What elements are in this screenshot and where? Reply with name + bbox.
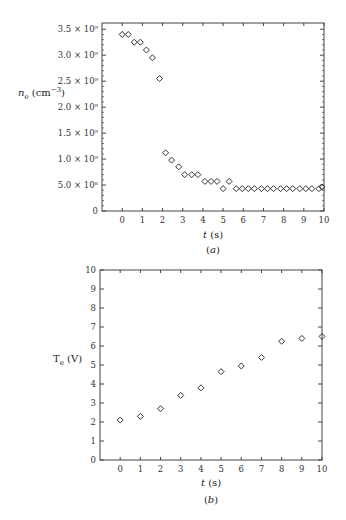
x-tick-label: 5 [218, 464, 223, 474]
x-tick-label: 0 [117, 464, 122, 474]
diamond-marker [299, 335, 305, 341]
diamond-marker [137, 39, 143, 45]
diamond-marker [297, 186, 303, 192]
x-tick-label: 10 [319, 215, 330, 225]
y-tick-label: 8 [91, 303, 96, 313]
diamond-marker [233, 186, 239, 192]
y-tick-label: 5 [91, 360, 96, 370]
diamond-marker [137, 413, 143, 419]
y-tick-label: 9 [91, 284, 96, 294]
chart-a-y-axis-label: ne (cm−3) [18, 86, 65, 101]
y-tick-label: 7 [91, 322, 96, 332]
diamond-marker [220, 186, 226, 192]
chart-b-data-points [117, 334, 325, 424]
diamond-marker [290, 186, 296, 192]
y-tick-label: 3.0 × 10⁹ [58, 50, 99, 60]
x-tick-label: 10 [317, 464, 328, 474]
x-tick-label: 6 [239, 464, 244, 474]
chart-b-x-axis-label: t (s) [201, 477, 221, 488]
x-tick-label: 9 [299, 464, 304, 474]
diamond-marker [258, 354, 264, 360]
y-tick-label: 1.5 × 10⁹ [58, 128, 99, 138]
chart-a-data-points [119, 31, 325, 191]
y-tick-label: 0 [91, 455, 96, 465]
diamond-marker [182, 172, 188, 178]
diamond-marker [163, 150, 169, 156]
x-tick-label: 7 [261, 215, 266, 225]
diamond-marker [178, 392, 184, 398]
y-tick-label: 2 [91, 417, 96, 427]
y-tick-label: 10 [85, 265, 96, 275]
x-tick-label: 5 [220, 215, 225, 225]
diamond-marker [258, 186, 264, 192]
diamond-marker [125, 31, 131, 37]
diamond-marker [226, 178, 232, 184]
y-tick-label: 6 [91, 341, 96, 351]
diamond-marker [251, 186, 257, 192]
chart-a-x-ticks: 012345678910 [119, 23, 329, 225]
diamond-marker [279, 338, 285, 344]
x-tick-label: 1 [140, 215, 145, 225]
y-tick-label: 1 [91, 436, 96, 446]
diamond-marker [119, 31, 125, 37]
diamond-marker [176, 164, 182, 170]
y-tick-label: 2.0 × 10⁹ [58, 102, 99, 112]
figure: 012345678910 05.0 × 10⁸1.0 × 10⁹1.5 × 10… [0, 0, 346, 520]
y-tick-label: 5.0 × 10⁸ [58, 180, 99, 190]
diamond-marker [218, 369, 224, 375]
y-tick-label: 3 [91, 398, 96, 408]
chart-b-electron-temperature: 012345678910 012345678910 Te (V) t (s) (… [53, 265, 327, 505]
diamond-marker [202, 178, 208, 184]
diamond-marker [309, 186, 315, 192]
diamond-marker [238, 363, 244, 369]
x-tick-label: 1 [138, 464, 143, 474]
diamond-marker [214, 178, 220, 184]
chart-b-caption: (b) [204, 494, 218, 505]
x-tick-label: 8 [281, 215, 286, 225]
diamond-marker [245, 186, 251, 192]
diamond-marker [131, 39, 137, 45]
diamond-marker [189, 172, 195, 178]
diamond-marker [239, 186, 245, 192]
y-tick-label: 1.0 × 10⁹ [58, 154, 99, 164]
chart-a-caption: (a) [206, 244, 220, 255]
x-tick-label: 3 [178, 464, 183, 474]
x-tick-label: 9 [301, 215, 306, 225]
diamond-marker [195, 172, 201, 178]
diamond-marker [271, 186, 277, 192]
diamond-marker [198, 385, 204, 391]
x-tick-label: 6 [241, 215, 246, 225]
chart-a-electron-density: 012345678910 05.0 × 10⁸1.0 × 10⁹1.5 × 10… [18, 23, 329, 255]
diamond-marker [278, 186, 284, 192]
x-tick-label: 8 [279, 464, 284, 474]
chart-b-y-ticks: 012345678910 [85, 265, 322, 465]
diamond-marker [143, 47, 149, 53]
diamond-marker [149, 55, 155, 61]
diamond-marker [117, 417, 123, 423]
y-tick-label: 4 [91, 379, 96, 389]
diamond-marker [208, 178, 214, 184]
x-tick-label: 2 [158, 464, 163, 474]
x-tick-label: 4 [200, 215, 205, 225]
x-tick-label: 4 [198, 464, 203, 474]
y-tick-label: 2.5 × 10⁹ [58, 76, 99, 86]
chart-a-y-ticks: 05.0 × 10⁸1.0 × 10⁹1.5 × 10⁹2.0 × 10⁹2.5… [58, 24, 324, 216]
diamond-marker [169, 157, 175, 163]
x-tick-label: 0 [119, 215, 124, 225]
diamond-marker [284, 186, 290, 192]
diamond-marker [157, 76, 163, 82]
x-tick-label: 7 [259, 464, 264, 474]
chart-b-frame [100, 270, 322, 460]
diamond-marker [264, 186, 270, 192]
chart-b-x-ticks: 012345678910 [117, 270, 327, 474]
y-tick-label: 3.5 × 10⁹ [58, 24, 99, 34]
x-tick-label: 3 [180, 215, 185, 225]
y-tick-label: 0 [93, 206, 98, 216]
chart-b-y-axis-label: Te (V) [53, 353, 82, 367]
x-tick-label: 2 [160, 215, 165, 225]
chart-a-x-axis-label: t (s) [203, 229, 223, 240]
diamond-marker [303, 186, 309, 192]
diamond-marker [158, 406, 164, 412]
